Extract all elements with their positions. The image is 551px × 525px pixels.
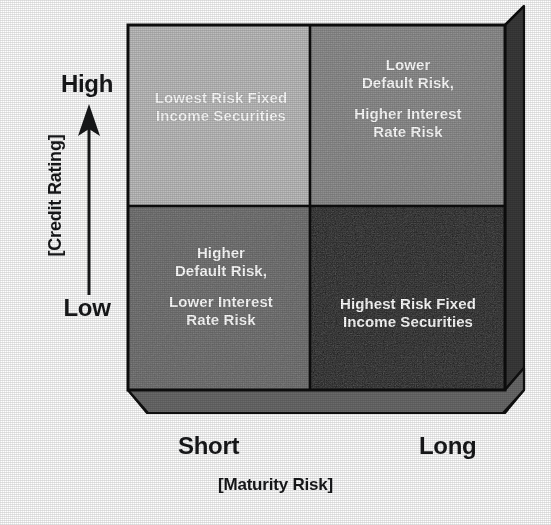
risk-matrix-3d-block [0,0,551,430]
quadrant-bottom-left [128,206,310,390]
x-axis-title: [Maturity Risk] [0,475,551,495]
x-axis-long-label: Long [419,432,476,460]
quadrant-top-right [310,25,505,206]
y-axis-high-label: High [52,70,122,98]
x-axis-short-label: Short [178,432,239,460]
matrix-svg [0,0,551,430]
side-panel-3d [505,6,524,390]
quadrant-top-left [128,25,310,206]
y-axis-low-label: Low [52,294,122,322]
y-axis-title: [Credit Rating] [45,96,66,296]
diagram-canvas: Lowest Risk Fixed Income Securities Lowe… [0,0,551,525]
quadrant-bottom-right [310,206,505,390]
